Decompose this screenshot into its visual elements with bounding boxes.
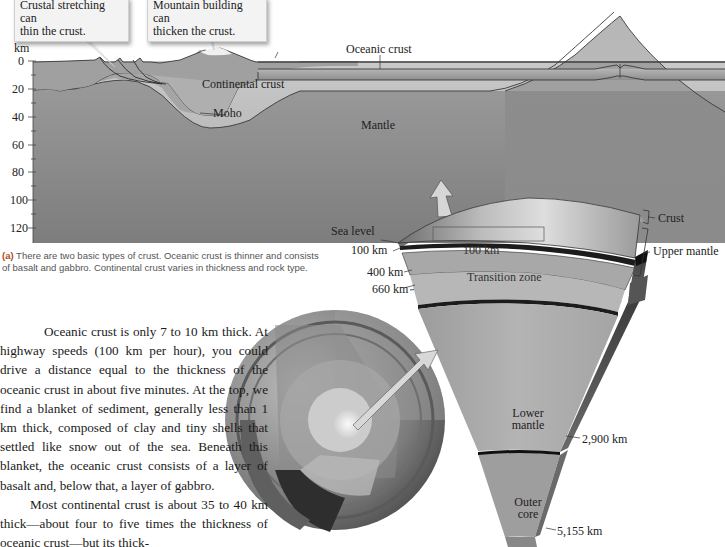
label-crust: Crust bbox=[658, 211, 684, 226]
caption-text: There are two basic types of crust. Ocea… bbox=[2, 250, 319, 273]
label-depth-400km: 400 km bbox=[367, 265, 403, 280]
body-text: Oceanic crust is only 7 to 10 km thick. … bbox=[0, 322, 268, 547]
label-depth-2900km: 2,900 km bbox=[582, 432, 627, 447]
label-upper-mantle: Upper mantle bbox=[653, 244, 719, 259]
callout-crustal-stretching: Crustal stretching can thin the crust. bbox=[14, 0, 129, 42]
callout-line: Mountain building can bbox=[153, 0, 261, 25]
label-transition-zone: Transition zone bbox=[467, 270, 542, 285]
depth-tick-120: 120 bbox=[4, 221, 28, 236]
label-depth-660km: 660 km bbox=[372, 282, 408, 297]
callout-mountain-building: Mountain building can thicken the crust. bbox=[147, 0, 267, 42]
figure-caption: (a) There are two basic types of crust. … bbox=[2, 250, 322, 274]
label-mantle: Mantle bbox=[361, 118, 395, 133]
depth-tick-40: 40 bbox=[0, 110, 24, 125]
depth-tick-80: 80 bbox=[0, 165, 24, 180]
label-oceanic-crust: Oceanic crust bbox=[346, 42, 412, 57]
depth-tick-100: 100 bbox=[4, 193, 28, 208]
depth-tick-0: 0 bbox=[0, 54, 24, 69]
caption-tag: (a) bbox=[2, 250, 14, 261]
label-depth-100km: 100 km bbox=[351, 243, 387, 258]
label-depth-5155km: 5,155 km bbox=[557, 524, 602, 539]
label-lower-mantle-line2: mantle bbox=[508, 418, 548, 433]
label-scale-100km: 100 km bbox=[463, 243, 499, 258]
label-moho: Moho bbox=[213, 106, 242, 121]
label-sea-level: Sea level bbox=[331, 224, 375, 239]
depth-tick-20: 20 bbox=[0, 82, 24, 97]
paragraph: Oceanic crust is only 7 to 10 km thick. … bbox=[0, 322, 268, 495]
paragraph: Most continental crust is about 35 to 40… bbox=[0, 495, 268, 547]
callout-line: thin the crust. bbox=[20, 25, 123, 38]
callout-line: Crustal stretching can bbox=[20, 0, 123, 25]
label-continental-crust: Continental crust bbox=[202, 77, 284, 92]
label-outer-core-line2: core bbox=[508, 507, 548, 522]
callout-line: thicken the crust. bbox=[153, 25, 261, 38]
depth-tick-60: 60 bbox=[0, 138, 24, 153]
